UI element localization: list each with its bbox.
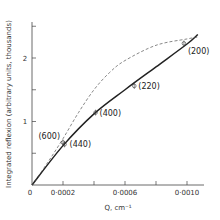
x-axis-label: Q, cm⁻¹ <box>104 204 131 212</box>
y-tick-label: 2 <box>23 55 27 63</box>
x-tick-label: 0·0010 <box>175 189 200 197</box>
point-label: (220) <box>138 82 160 91</box>
point-label: (400) <box>100 109 122 118</box>
y-axis-label: Integrated reflexion (arbitrary units, t… <box>5 20 13 188</box>
x-tick-label: 0 <box>28 189 32 197</box>
y-tick-label: 1 <box>23 118 27 126</box>
point-label: (440) <box>70 140 92 149</box>
point-label: (200) <box>188 47 210 56</box>
x-tick-label: 0·0006 <box>113 189 138 197</box>
point-label: (600) <box>38 132 60 141</box>
x-tick-label: 0·0002 <box>51 189 76 197</box>
data-points: (440)(600)(400)(220)(200) <box>38 40 209 149</box>
chart: 00·00020·00060·0010 12 (440)(600)(400)(2… <box>0 0 220 220</box>
x-ticks: 00·00020·00060·0010 <box>28 181 199 197</box>
y-ticks: 12 <box>23 26 36 153</box>
axes <box>32 22 204 185</box>
